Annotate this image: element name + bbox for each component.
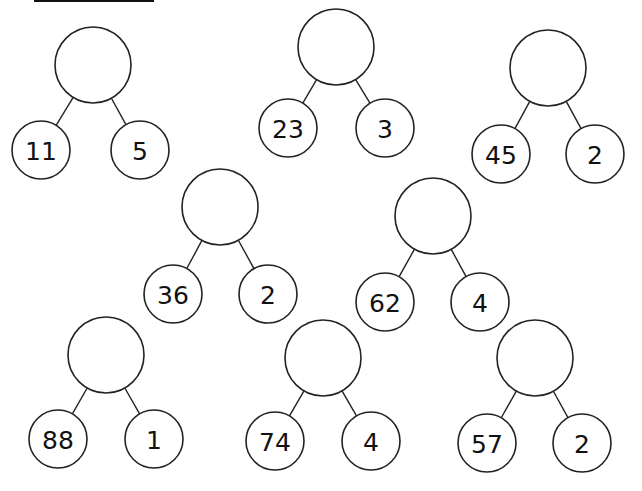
- part-value: 3: [377, 115, 393, 144]
- bond-connector-line: [399, 249, 414, 276]
- bond-connector-line: [501, 391, 516, 418]
- bond-connector-line: [238, 240, 254, 268]
- whole-answer-circle[interactable]: [285, 320, 361, 396]
- number-bond: 744: [246, 320, 400, 470]
- whole-answer-circle[interactable]: [395, 178, 471, 254]
- part-value: 11: [25, 137, 57, 166]
- bond-connector-line: [342, 391, 356, 416]
- bond-connector-line: [515, 101, 530, 128]
- number-bond: 572: [458, 320, 611, 472]
- bond-connector-line: [451, 249, 466, 276]
- bond-connector-line: [290, 391, 304, 416]
- bond-connector-line: [566, 101, 581, 128]
- part-value: 57: [471, 430, 503, 459]
- part-value: 36: [157, 281, 189, 310]
- bond-connector-line: [303, 80, 317, 103]
- number-bonds-area: 115233452362624881744572: [0, 0, 642, 491]
- bond-connector-line: [356, 80, 370, 104]
- part-value: 62: [369, 289, 401, 318]
- bond-connector-line: [125, 388, 140, 414]
- part-value: 45: [485, 141, 517, 170]
- number-bond: 881: [29, 317, 183, 468]
- whole-answer-circle[interactable]: [55, 27, 131, 103]
- whole-answer-circle[interactable]: [510, 30, 586, 106]
- number-bond: 452: [472, 30, 624, 183]
- part-value: 23: [272, 115, 304, 144]
- number-bond: 233: [259, 9, 414, 157]
- whole-answer-circle[interactable]: [497, 320, 573, 396]
- part-value: 74: [259, 428, 291, 457]
- worksheet: 115233452362624881744572: [0, 0, 642, 491]
- part-value: 4: [472, 289, 488, 318]
- part-value: 88: [42, 426, 74, 455]
- number-bond: 624: [356, 178, 509, 331]
- whole-answer-circle[interactable]: [68, 317, 144, 393]
- part-value: 1: [146, 426, 162, 455]
- bond-connector-line: [553, 391, 568, 417]
- whole-answer-circle[interactable]: [298, 9, 374, 85]
- whole-answer-circle[interactable]: [182, 169, 258, 245]
- number-bond: 115: [12, 27, 169, 179]
- part-value: 2: [587, 141, 603, 170]
- part-value: 4: [363, 428, 379, 457]
- part-value: 2: [574, 430, 590, 459]
- bond-connector-line: [111, 98, 126, 124]
- bond-connector-line: [56, 97, 73, 125]
- number-bond: 362: [144, 169, 297, 323]
- part-value: 2: [260, 281, 276, 310]
- bond-connector-line: [72, 388, 87, 414]
- bond-connector-line: [187, 240, 202, 268]
- part-value: 5: [132, 137, 148, 166]
